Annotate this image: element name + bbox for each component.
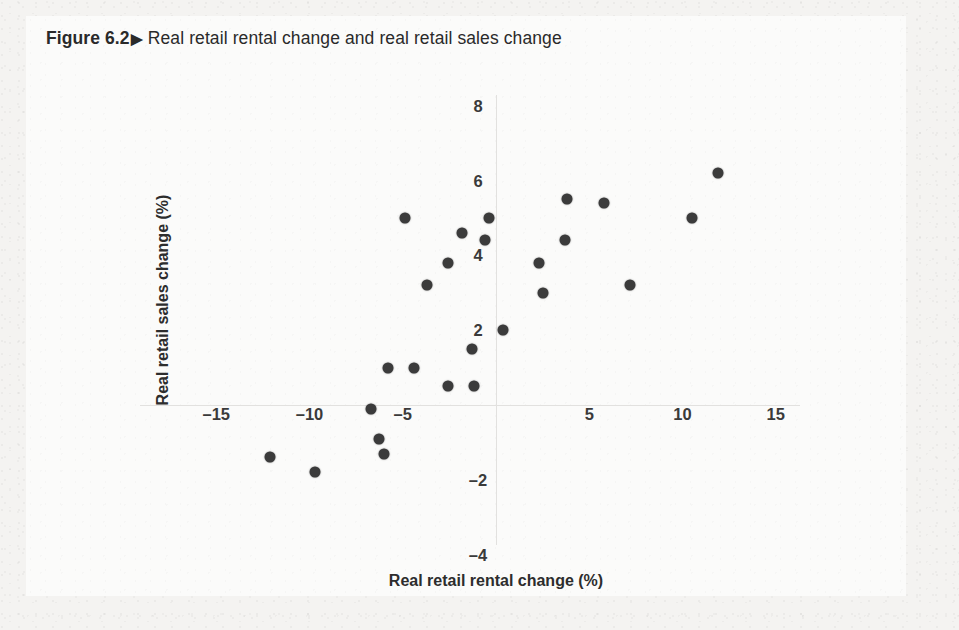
- data-point: [382, 362, 393, 373]
- y-tick-label: 2: [473, 321, 482, 340]
- x-tick-label: 5: [585, 405, 594, 424]
- data-point: [686, 213, 697, 224]
- data-point: [466, 343, 477, 354]
- x-axis-line: [140, 405, 800, 406]
- data-point: [408, 362, 419, 373]
- data-point: [625, 280, 636, 291]
- data-point: [468, 381, 479, 392]
- y-tick-label: 8: [473, 96, 482, 115]
- data-point: [373, 433, 384, 444]
- x-tick-label: –15: [202, 405, 230, 424]
- x-tick-label: 15: [767, 405, 785, 424]
- data-point: [483, 213, 494, 224]
- data-point: [561, 194, 572, 205]
- data-point: [310, 467, 321, 478]
- y-axis-title: Real retail sales change (%): [154, 195, 172, 406]
- data-point: [599, 198, 610, 209]
- scatter-plot: –15–10–551015 8642–2–4 Real retail renta…: [0, 0, 959, 630]
- figure-container: Figure 6.2▶Real retail rental change and…: [0, 0, 959, 630]
- x-tick-label: –5: [394, 405, 412, 424]
- y-tick-label: 4: [473, 246, 482, 265]
- x-tick-label: –10: [296, 405, 324, 424]
- data-point: [442, 381, 453, 392]
- data-point: [457, 227, 468, 238]
- y-tick-label: 6: [473, 171, 482, 190]
- data-point: [712, 168, 723, 179]
- y-tick-label: –4: [469, 545, 487, 564]
- data-point: [399, 213, 410, 224]
- x-tick-label: 10: [673, 405, 691, 424]
- x-axis-title: Real retail rental change (%): [389, 572, 603, 590]
- y-tick-label: –2: [469, 470, 487, 489]
- y-axis-line: [496, 95, 497, 545]
- data-point: [533, 257, 544, 268]
- data-point: [560, 235, 571, 246]
- data-point: [379, 448, 390, 459]
- data-point: [442, 257, 453, 268]
- data-point: [479, 235, 490, 246]
- data-point: [537, 287, 548, 298]
- data-point: [265, 452, 276, 463]
- data-point: [498, 325, 509, 336]
- data-point: [421, 280, 432, 291]
- data-point: [366, 403, 377, 414]
